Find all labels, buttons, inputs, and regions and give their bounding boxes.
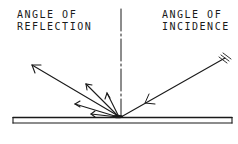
impact-point [113, 115, 123, 119]
surface [13, 118, 232, 124]
incident-ray [121, 53, 231, 117]
specular-reflected-ray [32, 65, 120, 117]
reflection-diagram [0, 0, 238, 144]
